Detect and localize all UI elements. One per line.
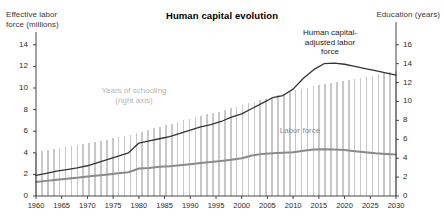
right-axis-tick-16: 16 [403, 40, 425, 49]
left-axis-tick-12: 12 [6, 61, 28, 70]
annotation-human-capital-adjusted-labor-force: Human capital- adjusted labor force [280, 28, 380, 57]
left-axis-tick-4: 4 [6, 148, 28, 157]
left-axis-tick-2: 2 [6, 169, 28, 178]
series-lines [36, 63, 396, 182]
left-axis-tick-8: 8 [6, 105, 28, 114]
right-axis-tick-4: 4 [403, 153, 425, 162]
left-axis-tick-6: 6 [6, 126, 28, 135]
left-axis-tick-0: 0 [6, 191, 28, 200]
right-axis-tick-10: 10 [403, 96, 425, 105]
right-axis-tick-14: 14 [403, 59, 425, 68]
right-axis-tick-0: 0 [403, 191, 425, 200]
left-axis-tick-14: 14 [6, 40, 28, 49]
x-axis-tick-2030: 2030 [381, 201, 411, 210]
chart-container: Effective labor force (millions) Human c… [0, 0, 444, 222]
annotation-labor-force: Labor force [258, 126, 342, 136]
right-axis-tick-12: 12 [403, 78, 425, 87]
annotation-years-of-schooling: Years of schooling (right axis) [74, 86, 194, 105]
right-axis-tick-2: 2 [403, 172, 425, 181]
right-axis-tick-6: 6 [403, 134, 425, 143]
left-axis-tick-10: 10 [6, 83, 28, 92]
right-axis-tick-8: 8 [403, 115, 425, 124]
